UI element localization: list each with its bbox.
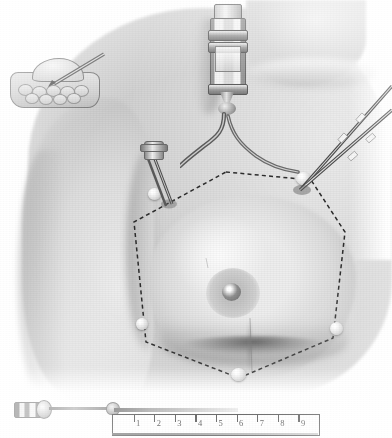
cannula-group [150, 84, 392, 214]
syringe-fluid-window [215, 46, 241, 72]
ruler-tick [195, 415, 196, 422]
ruler-label: 7 [260, 419, 264, 428]
syringe-band-upper [208, 30, 248, 41]
inset-lobule [25, 93, 39, 104]
inset-cross-section [8, 52, 108, 114]
ruler-tick [278, 415, 279, 422]
ruler-label: 8 [280, 419, 284, 428]
ruler-label: 1 [136, 419, 140, 428]
ruler-base-line [112, 433, 318, 435]
ruler-label: 3 [177, 419, 181, 428]
ruler-tick [216, 415, 217, 422]
ruler-tick [134, 415, 135, 422]
injection-site-lateral-right [330, 322, 343, 335]
ruler-tick [175, 415, 176, 422]
hub-flange [140, 144, 168, 152]
ruler-label: 6 [239, 419, 243, 428]
ruler-label: 4 [198, 419, 202, 428]
ruler-tick [298, 415, 299, 422]
inset-lobule [53, 94, 67, 105]
injection-site-inferior [231, 368, 246, 381]
ruler-label: 5 [219, 419, 223, 428]
inset-needle [38, 52, 108, 88]
needle-shaft-long [114, 408, 238, 412]
bottom-instrument: 123456789 [0, 392, 392, 438]
needle-shaft-short [49, 407, 111, 410]
ruler-tick [237, 415, 238, 422]
inset-lobule [39, 94, 53, 105]
needle-hub [140, 141, 166, 165]
ruler-tick [154, 415, 155, 422]
illustration-plate: 123456789 [0, 0, 392, 438]
ruler-label: 2 [157, 419, 161, 428]
injection-site-lateral-left [136, 318, 148, 330]
ruler-label: 9 [301, 419, 305, 428]
inset-lobule [67, 93, 81, 104]
ruler-tick [257, 415, 258, 422]
